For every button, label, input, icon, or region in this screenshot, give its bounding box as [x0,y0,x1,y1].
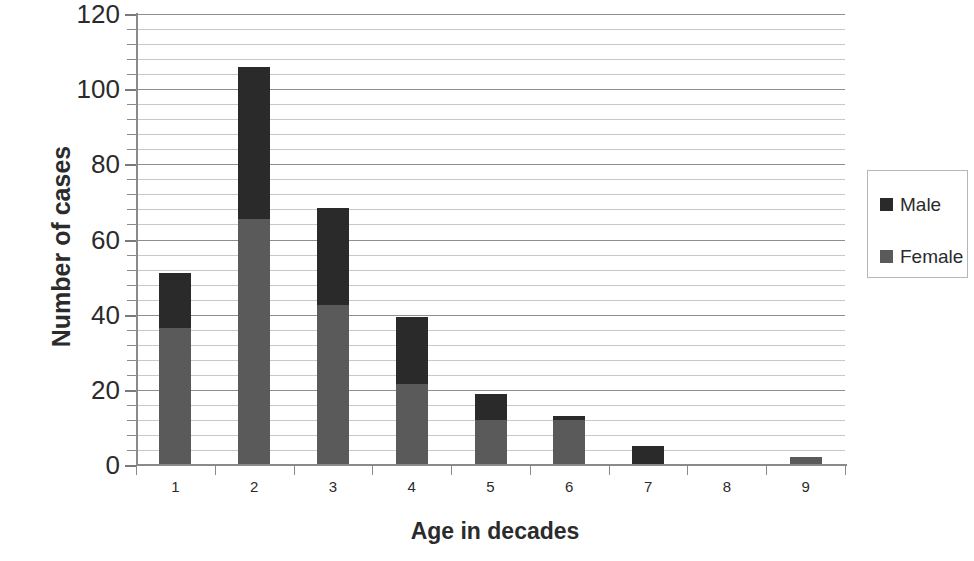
x-tick-mark [530,466,531,475]
bar-segment-male [159,273,191,327]
y-tick-mark [127,224,136,225]
y-axis-line [136,13,138,466]
bar-segment-male [475,394,507,420]
bar-group [553,416,585,465]
x-tick-label: 1 [155,478,195,495]
bar-group [159,273,191,465]
y-tick-mark [127,194,136,195]
gridline-minor [136,59,845,60]
bar-group [396,317,428,465]
bar-group [632,446,664,465]
bar-segment-female [553,420,585,465]
x-tick-label: 3 [313,478,353,495]
y-tick-mark [127,435,136,436]
legend-label: Female [900,247,963,266]
bar-segment-male [396,317,428,385]
x-tick-label: 5 [471,478,511,495]
y-tick-mark [127,270,136,271]
bar-group [317,208,349,465]
bar-segment-female [396,384,428,465]
y-tick-mark [127,209,136,210]
x-tick-label: 2 [234,478,274,495]
y-tick-mark [127,420,136,421]
x-tick-label: 6 [549,478,589,495]
gridline-minor [136,29,845,30]
y-tick-mark [127,59,136,60]
bar-segment-male [553,416,585,420]
legend-label: Male [900,195,941,214]
bar-segment-male [238,67,270,219]
y-tick-label: 20 [12,374,120,405]
y-tick-label: 80 [12,149,120,180]
y-tick-label: 100 [12,74,120,105]
y-tick-mark [125,14,136,16]
bar-segment-female [159,328,191,465]
bar-chart: Number of cases 120100806040200 12345678… [0,0,974,561]
x-axis-line [136,464,847,466]
bar-segment-female [317,305,349,465]
y-tick-label: 40 [12,299,120,330]
legend-swatch-icon [880,250,893,263]
y-tick-mark [125,164,136,166]
bar-group [475,394,507,465]
y-tick-mark [127,285,136,286]
gridline-minor [136,44,845,45]
x-tick-mark [136,466,137,475]
legend-item[interactable]: Female [880,247,963,266]
y-tick-mark [127,29,136,30]
y-tick-mark [127,405,136,406]
y-tick-mark [127,104,136,105]
x-tick-mark [687,466,688,475]
bar-segment-female [475,420,507,465]
x-tick-mark [451,466,452,475]
x-tick-label: 7 [628,478,668,495]
plot-area [136,14,845,465]
y-tick-mark [127,255,136,256]
y-tick-label: 60 [12,224,120,255]
y-tick-mark [127,179,136,180]
bar-segment-male [317,208,349,306]
y-tick-mark [127,119,136,120]
legend-swatch-icon [880,198,893,211]
y-tick-mark [127,360,136,361]
x-tick-mark [845,466,846,475]
y-tick-mark [127,330,136,331]
y-tick-mark [125,315,136,317]
y-tick-mark [125,465,136,467]
bar-segment-female [238,219,270,465]
y-tick-mark [127,74,136,75]
bar-group [238,67,270,465]
y-tick-mark [127,134,136,135]
y-tick-mark [127,375,136,376]
x-tick-mark [294,466,295,475]
y-tick-mark [125,240,136,242]
x-tick-mark [215,466,216,475]
bar-segment-male [632,446,664,465]
y-tick-mark [127,450,136,451]
gridline-major [136,14,845,15]
legend: MaleFemale [867,170,968,278]
y-tick-label: 120 [12,0,120,30]
y-tick-mark [127,300,136,301]
x-axis-title: Age in decades [145,518,845,545]
y-tick-mark [127,149,136,150]
y-tick-mark [127,44,136,45]
legend-item[interactable]: Male [880,195,941,214]
y-tick-label: 0 [12,450,120,481]
x-tick-label: 9 [786,478,826,495]
x-tick-mark [372,466,373,475]
x-tick-mark [609,466,610,475]
x-tick-label: 4 [392,478,432,495]
x-tick-label: 8 [707,478,747,495]
y-tick-mark [125,89,136,91]
x-tick-mark [766,466,767,475]
y-tick-mark [127,345,136,346]
y-tick-mark [125,390,136,392]
